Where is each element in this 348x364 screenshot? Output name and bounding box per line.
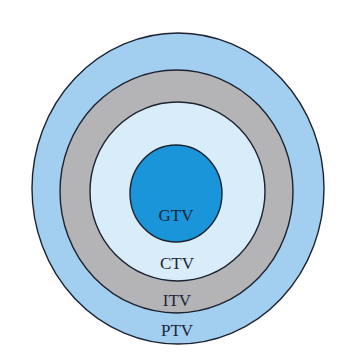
gtv-region bbox=[130, 145, 222, 242]
itv-label: ITV bbox=[163, 291, 192, 310]
target-volume-diagram: GTV CTV ITV PTV bbox=[0, 0, 348, 364]
ctv-label: CTV bbox=[160, 254, 195, 273]
ptv-label: PTV bbox=[161, 321, 194, 340]
gtv-label: GTV bbox=[159, 206, 195, 225]
